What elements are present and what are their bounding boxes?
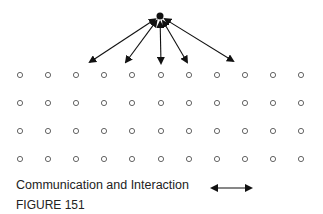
student-circle xyxy=(242,100,247,105)
student-circle xyxy=(73,100,78,105)
student-circle xyxy=(101,156,106,161)
student-circle xyxy=(270,156,275,161)
interaction-arrow xyxy=(163,21,187,62)
student-circle xyxy=(17,72,22,77)
student-circle xyxy=(242,128,247,133)
interaction-arrow xyxy=(126,21,156,62)
student-circle xyxy=(158,72,163,77)
student-circle xyxy=(17,100,22,105)
student-circle xyxy=(45,100,50,105)
student-circle xyxy=(101,72,106,77)
student-circle xyxy=(45,128,50,133)
student-circle xyxy=(73,156,78,161)
student-grid xyxy=(17,72,303,161)
student-circle xyxy=(214,128,219,133)
student-circle xyxy=(270,72,275,77)
student-circle xyxy=(17,128,22,133)
student-circle xyxy=(73,128,78,133)
student-circle xyxy=(214,72,219,77)
student-circle xyxy=(214,156,219,161)
student-circle xyxy=(298,72,303,77)
student-circle xyxy=(129,72,134,77)
student-circle xyxy=(242,72,247,77)
student-circle xyxy=(186,128,191,133)
student-circle xyxy=(158,100,163,105)
student-circle xyxy=(101,100,106,105)
student-circle xyxy=(101,128,106,133)
figure-caption: FIGURE 151 xyxy=(16,198,85,212)
interaction-arrow xyxy=(165,19,233,61)
student-circle xyxy=(298,100,303,105)
teacher-dot xyxy=(157,13,164,20)
student-circle xyxy=(186,100,191,105)
interaction-arrow xyxy=(90,19,155,62)
student-circle xyxy=(214,100,219,105)
student-circle xyxy=(73,72,78,77)
student-circle xyxy=(158,128,163,133)
student-circle xyxy=(17,156,22,161)
interaction-arrow xyxy=(160,22,161,63)
student-circle xyxy=(270,100,275,105)
student-circle xyxy=(186,72,191,77)
student-circle xyxy=(298,156,303,161)
student-circle xyxy=(129,156,134,161)
student-circle xyxy=(45,72,50,77)
interaction-arrows xyxy=(90,19,233,63)
student-circle xyxy=(158,156,163,161)
student-circle xyxy=(242,156,247,161)
student-circle xyxy=(298,128,303,133)
student-circle xyxy=(129,100,134,105)
student-circle xyxy=(270,128,275,133)
legend-label: Communication and Interaction xyxy=(16,178,189,192)
student-circle xyxy=(186,156,191,161)
student-circle xyxy=(129,128,134,133)
student-circle xyxy=(45,156,50,161)
